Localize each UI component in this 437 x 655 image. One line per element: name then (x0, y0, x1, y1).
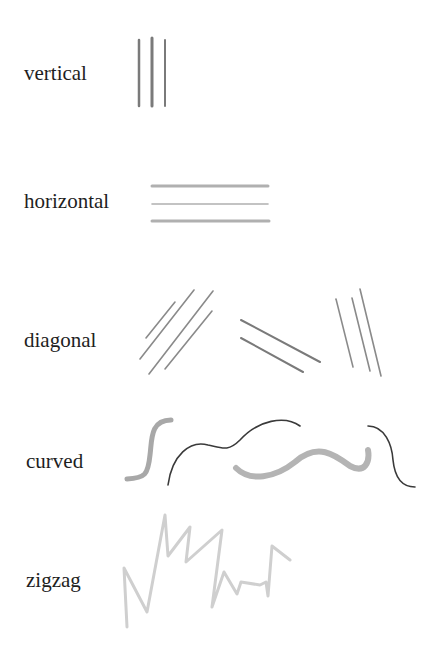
zigzag-line (124, 515, 290, 627)
curved-lines (127, 420, 415, 487)
diagonal-lines-steep (336, 289, 381, 376)
horizontal-lines (152, 186, 269, 221)
line-illustrations (0, 0, 437, 655)
diagonal-lines-rising (140, 290, 213, 374)
diagonal-lines-falling (241, 320, 320, 372)
vertical-lines (139, 38, 165, 106)
